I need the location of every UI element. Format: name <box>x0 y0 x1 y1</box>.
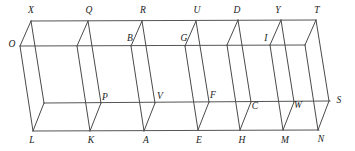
rib-R-A-top-lower <box>142 21 155 103</box>
vertical-ribs <box>20 20 329 131</box>
rib-T-N-lower-bottom <box>318 101 329 130</box>
rib-Y-M-mid-bottom <box>270 45 283 130</box>
rib-R-A-mid-bottom <box>131 46 144 131</box>
prism-drawing <box>0 0 355 151</box>
top-front-rail <box>20 45 305 46</box>
rib-R-A-lower-bottom <box>144 103 155 131</box>
rib-U-E-top-mid <box>185 21 196 46</box>
rib-Q-K-top-lower <box>88 21 101 103</box>
rib-T-N-top-lower <box>316 20 329 101</box>
rib-T-N-top-mid <box>305 20 316 45</box>
top-back-rail <box>31 20 316 21</box>
geometry-figure: XQRUDYTOBGIPVFCWSLKAEHMN <box>0 0 355 151</box>
rib-D-H-lower-bottom <box>240 102 251 130</box>
rib-U-E-mid-bottom <box>185 46 198 130</box>
rib-T-N-mid-bottom <box>305 45 318 130</box>
rib-D-H-top-lower <box>238 20 251 102</box>
rib-U-E-top-lower <box>196 21 209 102</box>
rib-Y-M-lower-bottom <box>283 102 294 130</box>
bottom-back-rail <box>44 101 330 103</box>
rib-X-L-lower-bottom <box>33 103 44 131</box>
rib-Q-K-lower-bottom <box>90 103 101 131</box>
rib-R-A-top-mid <box>131 21 142 46</box>
rib-D-H-mid-bottom <box>227 45 240 130</box>
bottom-front-rail <box>33 130 319 131</box>
rib-Y-M-top-lower <box>281 20 294 102</box>
rib-X-L-top-mid <box>20 21 31 46</box>
rib-Y-M-top-mid <box>270 20 281 45</box>
rib-D-H-top-mid <box>227 20 238 45</box>
rib-Q-K-top-mid <box>77 21 88 46</box>
rib-X-L-top-lower <box>31 21 44 103</box>
rib-U-E-lower-bottom <box>198 102 209 130</box>
rib-X-L-mid-bottom <box>20 46 33 131</box>
rib-Q-K-mid-bottom <box>77 46 90 131</box>
